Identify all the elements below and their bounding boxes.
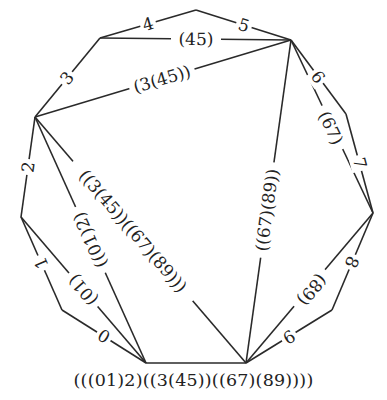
diagonal-label-3-45: (3(45)) — [131, 61, 193, 97]
polygon-sides — [21, 10, 373, 363]
diagonal-label-45: (45) — [178, 29, 213, 49]
diagonal-label-01-2: ((01)2) — [69, 209, 112, 271]
diagonal-labels: (45) (3(45)) (01) ((01)2) ((3(45))((67)(… — [61, 29, 350, 315]
triangulation-diagram: 0 1 2 3 4 5 6 7 — [0, 0, 387, 400]
diagonals — [21, 38, 373, 363]
bracketing-caption: (((01)2)((3(45))((67)(89)))) — [0, 370, 387, 390]
diagonal-label-67-89: ((67)(89)) — [251, 167, 282, 252]
